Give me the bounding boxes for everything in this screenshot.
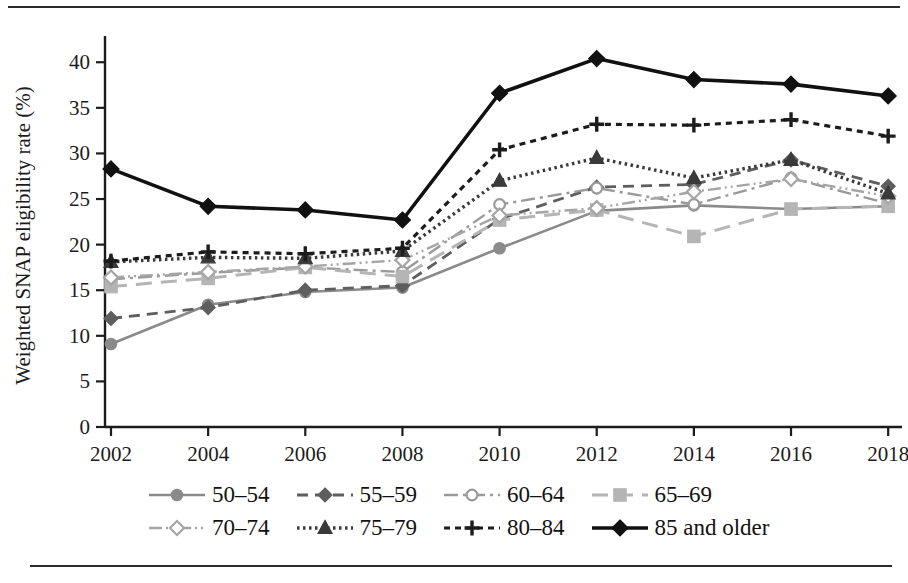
legend-label-80-84: 80–84 (507, 515, 565, 541)
y-tick-label: 40 (69, 50, 90, 74)
y-tick-label: 0 (80, 415, 91, 439)
y-tick-label: 35 (69, 96, 90, 120)
series-line (111, 178, 888, 279)
legend-item-70-74[interactable]: 70–74 (148, 515, 270, 541)
series-60-64 (106, 173, 894, 285)
x-tick-label: 2014 (673, 442, 716, 466)
legend-item-55-59[interactable]: 55–59 (296, 482, 418, 508)
data-point-marker (687, 170, 701, 183)
data-point-marker (686, 118, 701, 133)
data-point-marker (590, 150, 604, 163)
y-tick-label: 20 (69, 233, 90, 257)
legend-label-50-54: 50–54 (212, 482, 270, 508)
bottom-divider-rule (30, 565, 892, 567)
x-tick-label: 2008 (381, 442, 423, 466)
x-tick-label: 2002 (90, 442, 132, 466)
line-chart: 0510152025303540200220042006200820102012… (0, 14, 908, 474)
legend-label-85-plus: 85 and older (655, 515, 770, 541)
data-point-marker (612, 520, 628, 536)
legend-item-60-64[interactable]: 60–64 (443, 482, 565, 508)
legend-item-65-69[interactable]: 65–69 (591, 482, 713, 508)
legend-swatch-75-79 (296, 517, 354, 539)
legend-swatch-70-74 (148, 517, 206, 539)
data-point-marker (589, 117, 604, 132)
legend-swatch-80-84 (443, 517, 501, 539)
legend-swatch-85-plus (591, 517, 649, 539)
y-axis-title: Weighted SNAP eligibility rate (%) (11, 86, 35, 384)
data-point-marker (318, 488, 332, 502)
legend-label-60-64: 60–64 (507, 482, 565, 508)
legend-row-2: 70–74 75–79 80–84 85 and older (0, 511, 908, 544)
chart-plot-area: 0510152025303540200220042006200820102012… (0, 14, 908, 474)
legend-label-75-79: 75–79 (360, 515, 418, 541)
data-point-marker (880, 88, 896, 104)
legend-item-50-54[interactable]: 50–54 (148, 482, 270, 508)
data-point-marker (784, 112, 799, 127)
data-point-marker (105, 338, 116, 349)
data-point-marker (613, 488, 625, 500)
data-point-marker (881, 129, 896, 144)
y-tick-label: 5 (80, 369, 91, 393)
x-tick-label: 2004 (187, 442, 230, 466)
legend-item-85-plus[interactable]: 85 and older (591, 515, 770, 541)
legend-item-80-84[interactable]: 80–84 (443, 515, 565, 541)
data-point-marker (589, 51, 605, 67)
data-point-marker (785, 203, 797, 215)
data-point-marker (318, 520, 332, 533)
chart-legend: 50–54 55–59 60–64 65–69 70–74 75–79 (0, 478, 908, 558)
y-tick-label: 30 (69, 141, 90, 165)
series-line (111, 59, 888, 220)
series-line (111, 120, 888, 261)
data-point-marker (591, 183, 602, 194)
data-point-marker (200, 198, 216, 214)
legend-label-70-74: 70–74 (212, 515, 270, 541)
legend-label-65-69: 65–69 (655, 482, 713, 508)
legend-label-55-59: 55–59 (360, 482, 418, 508)
legend-swatch-50-54 (148, 484, 206, 506)
top-divider-rule (8, 6, 900, 8)
data-point-marker (170, 521, 184, 535)
legend-swatch-60-64 (443, 484, 501, 506)
data-point-marker (688, 230, 700, 242)
y-tick-label: 10 (69, 324, 90, 348)
data-point-marker (783, 76, 799, 92)
data-point-marker (688, 199, 699, 210)
series-70-74 (104, 172, 895, 284)
legend-swatch-65-69 (591, 484, 649, 506)
legend-row-1: 50–54 55–59 60–64 65–69 (0, 478, 908, 511)
data-point-marker (171, 489, 182, 500)
data-point-marker (396, 270, 408, 282)
data-point-marker (297, 202, 313, 218)
x-tick-label: 2012 (576, 442, 618, 466)
data-point-marker (686, 72, 702, 88)
x-tick-label: 2016 (770, 442, 812, 466)
figure-container: 0510152025303540200220042006200820102012… (0, 0, 908, 583)
x-tick-label: 2018 (867, 442, 908, 466)
legend-item-75-79[interactable]: 75–79 (296, 515, 418, 541)
data-point-marker (465, 520, 480, 535)
data-point-marker (493, 173, 507, 186)
x-tick-label: 2010 (479, 442, 521, 466)
data-point-marker (467, 489, 478, 500)
legend-swatch-55-59 (296, 484, 354, 506)
y-tick-label: 15 (69, 278, 90, 302)
data-point-marker (494, 243, 505, 254)
series-line (111, 179, 888, 277)
y-tick-label: 25 (69, 187, 90, 211)
x-tick-label: 2006 (284, 442, 326, 466)
